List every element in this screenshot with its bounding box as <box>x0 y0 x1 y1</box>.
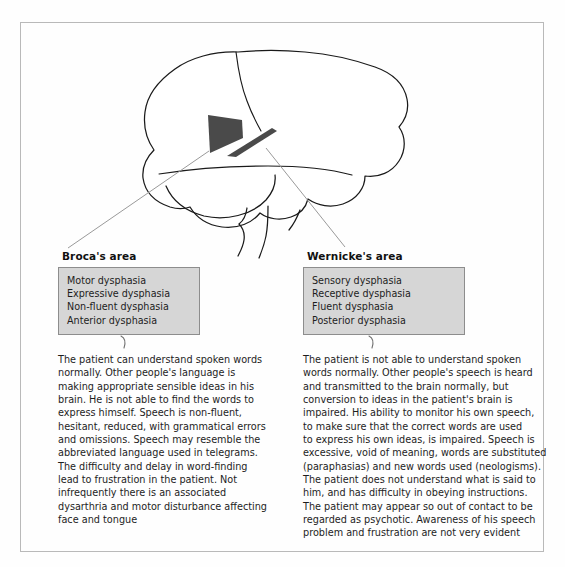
description-line: excessive, void of meaning, words are su… <box>303 446 519 459</box>
description-line: lead to frustration in the patient. Not <box>58 473 263 486</box>
description-line: The patient may appear so out of contact… <box>303 500 519 513</box>
description-line: to express his own ideas, is impaired. S… <box>303 433 519 446</box>
description-line: The patient can understand spoken words <box>58 353 263 366</box>
brocas-brace <box>58 335 270 351</box>
description-line: impaired. His ability to monitor his own… <box>303 406 519 419</box>
description-line: The patient is not able to understand sp… <box>303 353 519 366</box>
description-line: brain. He is not able to find the words … <box>58 393 263 406</box>
description-line: making appropriate sensible ideas in his <box>58 380 263 393</box>
wernickes-term: Receptive dysphasia <box>312 287 456 300</box>
brocas-term: Expressive dysphasia <box>67 287 191 300</box>
description-line: express himself. Speech is non-fluent, <box>58 406 263 419</box>
description-line: conversion to ideas in the patient's bra… <box>303 393 519 406</box>
brocas-area-title: Broca's area <box>62 250 270 262</box>
description-line: infrequently there is an associated <box>58 486 263 499</box>
wernickes-term: Posterior dysphasia <box>312 314 456 327</box>
brocas-term: Non-fluent dysphasia <box>67 300 191 313</box>
wernickes-brace <box>303 335 521 351</box>
brocas-terms-box: Motor dysphasia Expressive dysphasia Non… <box>58 267 200 335</box>
brocas-area-column: Broca's area Motor dysphasia Expressive … <box>58 250 270 526</box>
brocas-description: The patient can understand spoken words … <box>58 353 263 526</box>
description-line: The difficulty and delay in word-finding <box>58 460 263 473</box>
wernickes-term: Fluent dysphasia <box>312 300 456 313</box>
description-line: abbreviated language used in telegrams. <box>58 446 263 459</box>
brocas-term: Motor dysphasia <box>67 274 191 287</box>
wernickes-term: Sensory dysphasia <box>312 274 456 287</box>
description-line: him, and has difficulty in obeying instr… <box>303 486 519 499</box>
description-line: (paraphasias) and new words used (neolog… <box>303 460 519 473</box>
wernickes-terms-box: Sensory dysphasia Receptive dysphasia Fl… <box>303 267 465 335</box>
description-line: regarded as psychotic. Awareness of his … <box>303 513 519 526</box>
description-line: face and tongue <box>58 513 263 526</box>
description-line: The patient does not understand what is … <box>303 473 519 486</box>
description-line: and omissions. Speech may resemble the <box>58 433 263 446</box>
figure-page: Broca's area Motor dysphasia Expressive … <box>0 0 565 567</box>
description-line: to make sure that the correct words are … <box>303 420 519 433</box>
description-line: dysarthria and motor disturbance affecti… <box>58 500 263 513</box>
brocas-term: Anterior dysphasia <box>67 314 191 327</box>
description-line: normally. Other people's language is <box>58 366 263 379</box>
wernickes-area-title: Wernicke's area <box>307 250 521 262</box>
description-line: and transmitted to the brain normally, b… <box>303 380 519 393</box>
description-line: problem and frustration are not very evi… <box>303 526 519 539</box>
wernickes-area-column: Wernicke's area Sensory dysphasia Recept… <box>303 250 521 540</box>
description-line: hesitant, reduced, with grammatical erro… <box>58 420 263 433</box>
description-line: words normally. Other people's speech is… <box>303 366 519 379</box>
wernickes-description: The patient is not able to understand sp… <box>303 353 519 540</box>
